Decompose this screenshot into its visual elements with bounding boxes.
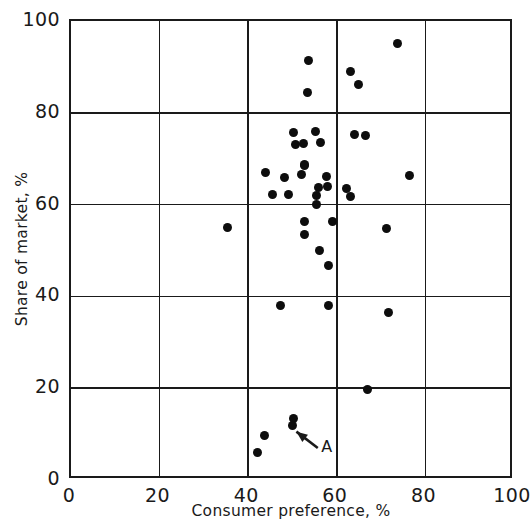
y-axis-title: Share of market, % (13, 172, 31, 327)
x-tick-label-100: 100 (493, 486, 530, 505)
data-point (223, 223, 232, 232)
gridline-horizontal (71, 296, 510, 298)
data-point (405, 171, 414, 180)
x-tick-label-80: 80 (411, 486, 436, 505)
gridline-vertical (159, 21, 161, 476)
data-point (315, 246, 324, 255)
x-axis-title: Consumer preference, % (192, 502, 391, 520)
gridline-vertical (425, 21, 427, 476)
data-point (297, 170, 306, 179)
data-point (284, 190, 293, 199)
x-tick-label-20: 20 (145, 486, 170, 505)
gridline-horizontal (71, 387, 510, 389)
data-point (261, 168, 270, 177)
data-point (324, 261, 333, 270)
data-point (303, 88, 312, 97)
data-point (322, 172, 331, 181)
gridline-horizontal (71, 204, 510, 206)
annotation-label-a: A (321, 437, 332, 456)
data-point (346, 192, 355, 201)
data-point (253, 448, 262, 457)
data-point (361, 131, 370, 140)
data-point (384, 308, 393, 317)
gridline-horizontal (71, 112, 510, 114)
data-point (316, 138, 325, 147)
y-tick-label-40: 40 (35, 285, 60, 304)
data-point (328, 217, 337, 226)
data-point (299, 139, 308, 148)
gridline-vertical (336, 21, 338, 476)
data-point (300, 217, 309, 226)
data-point (260, 431, 269, 440)
data-point (288, 421, 297, 430)
data-point (311, 127, 320, 136)
data-point (314, 183, 323, 192)
data-point (323, 182, 332, 191)
data-point (289, 128, 298, 137)
x-tick-label-0: 0 (63, 486, 76, 505)
data-point (393, 39, 402, 48)
data-point (268, 190, 277, 199)
y-tick-label-80: 80 (35, 101, 60, 120)
data-point (363, 385, 372, 394)
y-tick-label-0: 0 (48, 469, 61, 488)
data-point (324, 301, 333, 310)
data-point (300, 161, 309, 170)
plot-area (69, 19, 512, 478)
data-point (350, 130, 359, 139)
y-tick-label-60: 60 (35, 193, 60, 212)
data-point (354, 80, 363, 89)
y-tick-label-20: 20 (35, 377, 60, 396)
data-point (382, 224, 391, 233)
data-point (346, 67, 355, 76)
data-point (312, 200, 321, 209)
data-point (304, 56, 313, 65)
y-tick-label-100: 100 (23, 10, 60, 29)
gridline-vertical (247, 21, 249, 476)
data-point (276, 301, 285, 310)
data-point (280, 173, 289, 182)
data-point (300, 230, 309, 239)
